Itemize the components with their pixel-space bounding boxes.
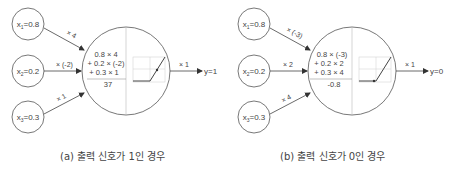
input-node-x1: x1=0.8 — [238, 8, 270, 40]
panel-a: x1=0.8 x2=0.2 x3=0.3 × 4 × (-2) × 1 0 — [12, 8, 218, 133]
svg-text:x3=0.3: x3=0.3 — [17, 113, 40, 123]
svg-text:0.8 × (-3): 0.8 × (-3) — [317, 50, 348, 59]
sum-result: 37 — [104, 80, 112, 89]
weight-label-2: × 2 — [283, 61, 293, 68]
output-weight: × 1 — [405, 61, 415, 68]
weight-label-1: × (-3) — [285, 26, 304, 41]
edge-x1 — [44, 28, 84, 50]
weighted-sum: 0.8 × 4 + 0.2 × (-2) + 0.3 × 1 37 — [87, 50, 126, 89]
svg-text:+ 0.2 × 2: + 0.2 × 2 — [314, 59, 344, 68]
svg-text:x1=0.8: x1=0.8 — [17, 20, 40, 30]
weight-label-3: × 1 — [55, 92, 67, 103]
svg-text:+ 0.2 × (-2): + 0.2 × (-2) — [87, 59, 125, 68]
output-value: y=0 — [430, 67, 444, 76]
input-node-x2: x2=0.2 — [238, 55, 270, 87]
output-weight: × 1 — [179, 61, 189, 68]
panel-b: x1=0.8 x2=0.2 x3=0.3 × (-3) × 2 × 4 0.8 … — [238, 8, 444, 133]
input-node-x2: x2=0.2 — [12, 55, 44, 87]
weight-label-1: × 4 — [66, 29, 78, 40]
output-value: y=1 — [204, 67, 218, 76]
caption-b: (b) 출력 신호가 0인 경우 — [280, 148, 385, 163]
svg-text:0.8 × 4: 0.8 × 4 — [94, 50, 117, 59]
svg-text:+ 0.3 × 1: + 0.3 × 1 — [89, 68, 119, 77]
sum-result: -0.8 — [328, 80, 341, 89]
input-node-x1: x1=0.8 — [12, 8, 44, 40]
svg-text:x2=0.2: x2=0.2 — [17, 67, 40, 77]
weighted-sum: 0.8 × (-3) + 0.2 × 2 + 0.3 × 4 -0.8 — [310, 50, 352, 89]
weight-label-3: × 4 — [280, 93, 292, 104]
input-node-x3: x3=0.3 — [238, 101, 270, 133]
svg-text:x2=0.2: x2=0.2 — [243, 67, 266, 77]
neuron: 0.8 × (-3) + 0.2 × 2 + 0.3 × 4 -0.8 — [308, 27, 396, 115]
caption-a: (a) 출력 신호가 1인 경우 — [60, 148, 165, 163]
weight-label-2: × (-2) — [56, 61, 73, 69]
svg-text:+ 0.3 × 4: + 0.3 × 4 — [314, 68, 344, 77]
neuron: 0.8 × 4 + 0.2 × (-2) + 0.3 × 1 37 — [82, 27, 170, 115]
activation-graph — [133, 57, 165, 82]
input-node-x3: x3=0.3 — [12, 101, 44, 133]
svg-text:x1=0.8: x1=0.8 — [243, 20, 266, 30]
activation-graph — [359, 57, 391, 82]
svg-text:x3=0.3: x3=0.3 — [243, 113, 266, 123]
